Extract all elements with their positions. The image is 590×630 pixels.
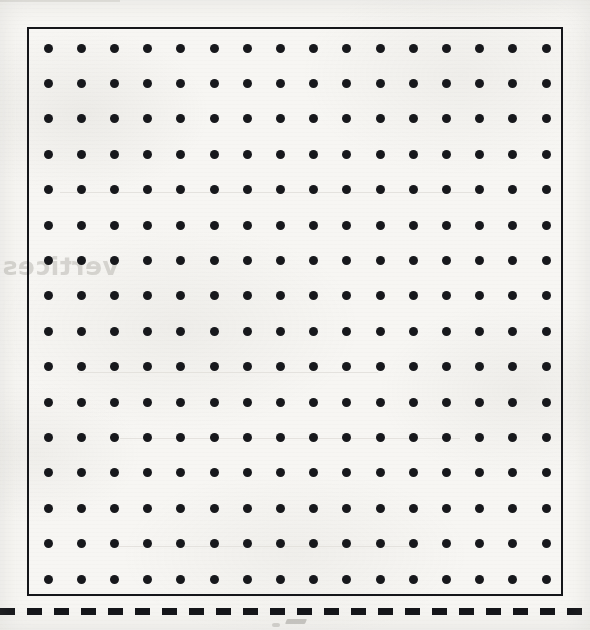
grid-dot — [276, 150, 285, 159]
grid-dot — [110, 291, 119, 300]
grid-dot — [110, 504, 119, 513]
grid-dot — [508, 362, 517, 371]
grid-dot — [110, 44, 119, 53]
grid-dot — [44, 44, 53, 53]
grid-dot — [210, 185, 219, 194]
grid-dot — [475, 575, 484, 584]
grid-dot — [276, 575, 285, 584]
grid-dot — [376, 256, 385, 265]
grid-dot — [376, 327, 385, 336]
grid-dot — [143, 44, 152, 53]
grid-dot — [77, 575, 86, 584]
grid-dot — [210, 150, 219, 159]
grid-dot — [210, 221, 219, 230]
grid-dot — [342, 433, 351, 442]
grid-dot — [409, 185, 418, 194]
grid-dot — [110, 575, 119, 584]
grid-dot — [342, 291, 351, 300]
grid-dot — [309, 327, 318, 336]
grid-dot — [442, 185, 451, 194]
grid-dot — [409, 398, 418, 407]
grid-dot — [44, 398, 53, 407]
grid-dot — [44, 575, 53, 584]
dot-grid-frame — [27, 27, 563, 596]
grid-dot — [508, 468, 517, 477]
grid-dot — [210, 504, 219, 513]
grid-dot — [44, 150, 53, 159]
grid-dot — [276, 327, 285, 336]
grid-dot — [309, 256, 318, 265]
grid-dot — [243, 362, 252, 371]
grid-dot — [243, 150, 252, 159]
grid-dot — [442, 433, 451, 442]
grid-dot — [243, 79, 252, 88]
grid-dot — [77, 256, 86, 265]
grid-dot — [143, 150, 152, 159]
show-through-underline — [0, 0, 120, 2]
grid-dot — [508, 256, 517, 265]
grid-dot — [475, 114, 484, 123]
grid-dot — [475, 398, 484, 407]
grid-dot — [475, 44, 484, 53]
grid-dot — [176, 362, 185, 371]
grid-dot — [342, 362, 351, 371]
grid-dot — [176, 575, 185, 584]
grid-dot — [342, 327, 351, 336]
grid-dot — [276, 539, 285, 548]
grid-dot — [309, 114, 318, 123]
grid-dot — [442, 44, 451, 53]
grid-dot — [342, 398, 351, 407]
grid-dot — [143, 398, 152, 407]
grid-dot — [376, 221, 385, 230]
grid-dot — [243, 221, 252, 230]
grid-dot — [143, 221, 152, 230]
grid-dot — [210, 433, 219, 442]
grid-dot — [243, 398, 252, 407]
grid-dot — [442, 575, 451, 584]
grid-dot — [542, 114, 551, 123]
dot-grid — [29, 29, 561, 594]
grid-dot — [309, 539, 318, 548]
grid-dot — [77, 468, 86, 477]
grid-dot — [309, 221, 318, 230]
grid-dot — [376, 150, 385, 159]
grid-dot — [77, 185, 86, 194]
grid-dot — [442, 504, 451, 513]
grid-dot — [176, 185, 185, 194]
grid-dot — [409, 150, 418, 159]
grid-dot — [77, 150, 86, 159]
grid-dot — [210, 114, 219, 123]
grid-dot — [342, 44, 351, 53]
grid-dot — [542, 185, 551, 194]
grid-dot — [44, 256, 53, 265]
grid-dot — [176, 79, 185, 88]
grid-dot — [210, 539, 219, 548]
grid-dot — [542, 433, 551, 442]
grid-dot — [475, 291, 484, 300]
grid-dot — [110, 468, 119, 477]
grid-dot — [508, 575, 517, 584]
grid-dot — [508, 327, 517, 336]
grid-dot — [442, 327, 451, 336]
grid-dot — [442, 291, 451, 300]
grid-dot — [475, 433, 484, 442]
grid-dot — [176, 221, 185, 230]
grid-dot — [475, 539, 484, 548]
grid-dot — [376, 433, 385, 442]
grid-dot — [143, 185, 152, 194]
grid-dot — [542, 539, 551, 548]
grid-dot — [542, 150, 551, 159]
grid-dot — [309, 291, 318, 300]
grid-dot — [342, 468, 351, 477]
grid-dot — [210, 575, 219, 584]
grid-dot — [276, 291, 285, 300]
grid-dot — [442, 539, 451, 548]
grid-dot — [243, 327, 252, 336]
grid-dot — [376, 575, 385, 584]
grid-dot — [309, 433, 318, 442]
grid-dot — [176, 504, 185, 513]
grid-dot — [276, 433, 285, 442]
grid-dot — [77, 327, 86, 336]
grid-dot — [210, 362, 219, 371]
grid-dot — [210, 79, 219, 88]
